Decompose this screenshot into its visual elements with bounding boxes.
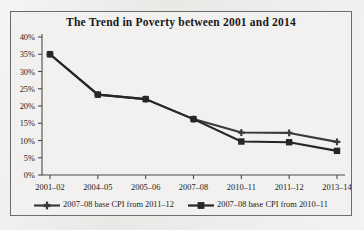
x-tick-label: 2013–14 (322, 183, 351, 192)
y-tick-label: 40% (20, 33, 35, 42)
x-tick-label: 2011–12 (275, 183, 304, 192)
y-tick-label: 10% (20, 137, 35, 146)
legend-marker-square-icon (188, 201, 214, 210)
legend-item-series-2: 2007–08 base CPI from 2010–11 (188, 201, 328, 210)
chart-figure: The Trend in Poverty between 2001 and 20… (10, 11, 352, 216)
y-tick-label: 30% (20, 68, 35, 77)
legend-label-series-2: 2007–08 base CPI from 2010–11 (217, 201, 328, 209)
x-tick-label: 2005–06 (131, 183, 160, 192)
y-tick-label: 20% (20, 102, 35, 111)
data-point-marker (142, 96, 148, 102)
legend-label-series-1: 2007–08 base CPI from 2011–12 (63, 201, 174, 209)
legend-marker-cross-icon (34, 201, 60, 210)
data-series-layer (47, 51, 341, 154)
y-axis-tick-marks (38, 37, 42, 175)
series-2 (47, 51, 340, 154)
data-point-marker (334, 148, 340, 154)
data-point-marker (286, 139, 292, 145)
y-tick-label: 0% (24, 171, 35, 180)
y-tick-label: 5% (24, 154, 35, 163)
y-axis-tick-labels: 0%5%10%15%20%25%30%35%40% (20, 33, 35, 180)
x-tick-label: 2004–05 (83, 183, 112, 192)
data-point-marker (238, 138, 244, 144)
y-tick-label: 35% (20, 50, 35, 59)
data-point-marker (47, 51, 53, 57)
x-axis-tick-marks (50, 175, 337, 179)
x-tick-label: 2010–11 (227, 183, 256, 192)
data-point-marker (334, 138, 341, 145)
data-point-marker (238, 129, 245, 136)
series-1 (47, 51, 341, 145)
chart-legend: 2007–08 base CPI from 2011–12 2007–08 ba… (11, 201, 351, 210)
line-chart-plot: 0%5%10%15%20%25%30%35%40% 2001–022004–05… (11, 12, 351, 215)
data-point-marker (95, 91, 101, 97)
data-point-marker (190, 116, 196, 122)
x-axis-tick-labels: 2001–022004–052005–062007–082010–112011–… (35, 183, 351, 192)
y-tick-label: 15% (20, 119, 35, 128)
data-point-marker (286, 130, 293, 137)
x-tick-label: 2007–08 (179, 183, 208, 192)
legend-item-series-1: 2007–08 base CPI from 2011–12 (34, 201, 174, 210)
y-tick-label: 25% (20, 85, 35, 94)
x-tick-label: 2001–02 (35, 183, 64, 192)
